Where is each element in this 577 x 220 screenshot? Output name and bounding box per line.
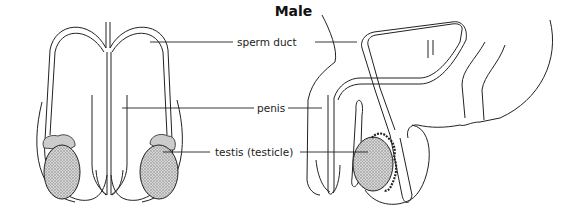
anatomy-illustration xyxy=(0,0,577,220)
label-penis: penis xyxy=(254,102,288,114)
diagram-canvas: Male sperm duct penis testis (testicle) xyxy=(0,0,577,220)
side-testis xyxy=(353,134,396,192)
label-sperm-duct: sperm duct xyxy=(234,36,300,48)
label-testis: testis (testicle) xyxy=(212,146,296,158)
side-view xyxy=(307,15,553,204)
diagram-title: Male xyxy=(0,3,577,19)
